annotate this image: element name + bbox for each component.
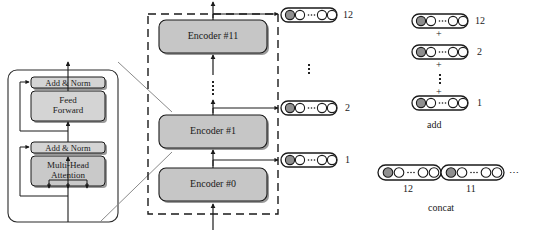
add-row-12-pill: [412, 14, 468, 28]
concat-seg-11-layer-number: 11: [466, 184, 476, 194]
add-plus-sign-3: +: [436, 87, 442, 97]
add-row-12-layer-number: 12: [475, 16, 485, 26]
concat-panel-pills: [378, 165, 504, 180]
callout-line-upper: [118, 62, 172, 112]
add-row-2-layer-number: 2: [477, 47, 482, 57]
tap-layer-1: [213, 160, 278, 166]
hidden-2-layer-number: 2: [345, 103, 350, 113]
multi-head-attention-label-line2: Attention: [31, 171, 105, 181]
add-row-1-pill: [412, 96, 468, 110]
add-row-2-pill: [412, 45, 468, 59]
hidden-12-layer-number: 12: [343, 10, 353, 20]
add-plus-sign-2: +: [436, 60, 442, 70]
concat-caption: concat: [428, 203, 454, 213]
add-panel-ellipsis: [439, 72, 442, 84]
concat-seg-12-layer-number: 12: [403, 184, 413, 194]
hidden-1-layer-number: 1: [345, 155, 350, 165]
feed-forward-label-line2: Forward: [31, 106, 105, 116]
hidden-2-pill: [281, 101, 337, 115]
tap-layer-2: [213, 108, 278, 113]
add-plus-sign-1: +: [436, 29, 442, 39]
encoder-stack-ellipsis: [212, 79, 215, 95]
concat-trailing-ellipsis: ⋯: [509, 168, 521, 178]
hidden-vector-pills: [281, 8, 337, 167]
hidden-vectors-ellipsis: [307, 62, 310, 74]
concat-seg-11-pill: [441, 165, 504, 180]
encoder-0-label: Encoder #0: [159, 179, 267, 190]
encoder-boxes: [159, 20, 269, 203]
add-row-1-layer-number: 1: [477, 98, 482, 108]
concat-seg-12-pill: [378, 165, 441, 180]
encoder-1-label: Encoder #1: [159, 126, 267, 137]
diagram-vector-layer: [0, 0, 553, 235]
diagram-canvas: Add & Norm Feed Forward Add & Norm Multi…: [0, 0, 553, 235]
hidden-1-pill: [281, 153, 337, 167]
add-norm-top-label: Add & Norm: [31, 79, 105, 88]
hidden-12-pill: [281, 8, 337, 22]
add-norm-bottom-label: Add & Norm: [31, 144, 105, 153]
encoder-11-label: Encoder #11: [159, 31, 267, 42]
add-caption: add: [427, 120, 441, 130]
